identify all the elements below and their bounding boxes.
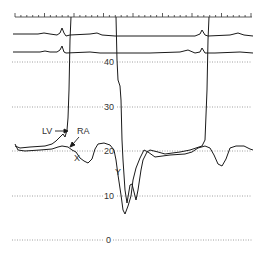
y-tick-30: 30 [104, 102, 114, 112]
grid-lines [12, 62, 252, 240]
arrow-ra-icon [70, 137, 79, 147]
y-tick-10: 10 [104, 191, 114, 201]
label-lv: LV [42, 126, 52, 136]
label-ra: RA [77, 126, 90, 136]
ra-pressure-trace [15, 143, 253, 214]
arrow-lv-icon [55, 129, 68, 133]
y-tick-0: 0 [106, 235, 111, 245]
time-ruler [15, 13, 252, 17]
y-tick-40: 40 [104, 57, 114, 67]
ecg-trace-1 [13, 28, 253, 36]
label-y-descent: Y [115, 167, 121, 177]
pressure-tracing-chart: 40 30 20 10 0 LV RA X Y [0, 0, 265, 254]
label-x-descent: X [74, 153, 80, 163]
ecg-trace-2 [13, 46, 253, 53]
